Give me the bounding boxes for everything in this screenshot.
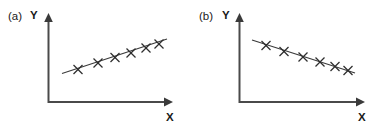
panel-b-x-axis-arrowhead <box>356 98 365 107</box>
panel-a: (a) Y X <box>0 0 191 131</box>
data-point-marker <box>142 44 151 53</box>
data-point-marker <box>155 40 164 49</box>
data-point-marker <box>331 62 340 71</box>
panel-a-data-points <box>74 40 164 75</box>
panel-a-plot <box>0 0 191 131</box>
panel-b-y-axis-arrowhead <box>235 13 244 22</box>
panel-b: (b) Y X <box>191 0 382 131</box>
panel-a-x-axis-arrowhead <box>164 98 173 107</box>
correlation-figure: (a) Y X <box>0 0 382 131</box>
data-point-marker <box>344 66 353 75</box>
panel-b-plot <box>191 0 382 131</box>
data-point-marker <box>127 49 136 58</box>
panel-a-y-axis-arrowhead <box>44 13 53 22</box>
data-point-marker <box>316 58 325 67</box>
